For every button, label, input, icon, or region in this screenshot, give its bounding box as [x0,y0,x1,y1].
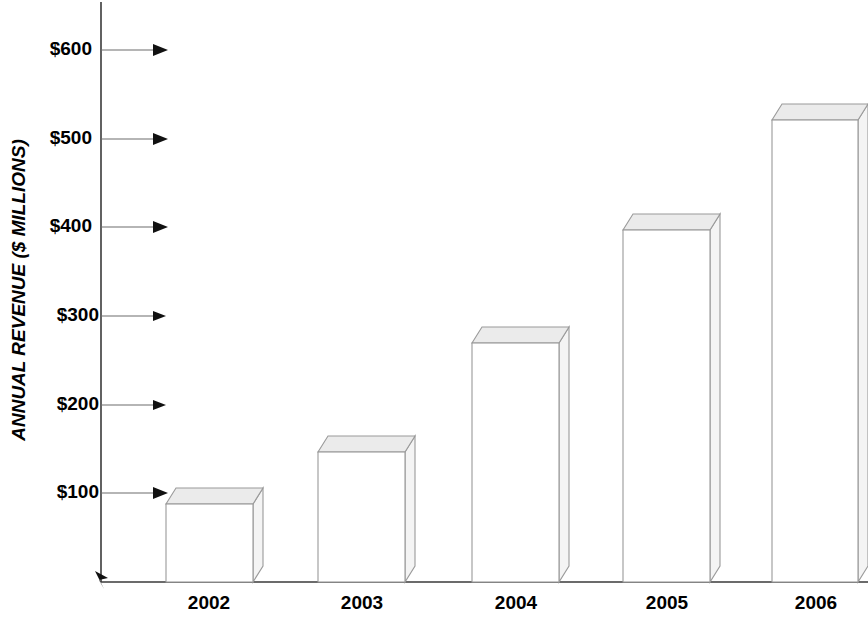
tick-arrow-icon [153,400,166,410]
chart-canvas: $600 $500 $400 $300 $200 [0,0,868,620]
y-tick-500: $500 [50,127,168,148]
tick-arrow-icon [153,133,168,145]
x-tick-label-2003: 2003 [341,592,383,613]
x-tick-label-2002: 2002 [188,592,230,613]
tick-arrow-icon [153,44,168,56]
x-tick-label-2006: 2006 [795,592,837,613]
revenue-bar-chart: $600 $500 $400 $300 $200 [0,0,868,620]
y-tick-label: $500 [50,127,92,148]
x-tick-label-2004: 2004 [495,592,538,613]
y-axis-title: ANNUAL REVENUE ($ MILLIONS) [8,139,29,442]
tick-arrow-icon [153,311,166,321]
x-tick-label-2005: 2005 [646,592,689,613]
y-tick-label: $200 [57,393,99,414]
y-tick-200: $200 [57,393,166,414]
y-tick-400: $400 [50,215,168,236]
tick-arrow-icon [153,221,168,233]
y-tick-label: $400 [50,215,92,236]
bar-2003 [318,436,415,582]
bar-2002 [166,488,263,582]
y-tick-label: $600 [50,38,92,59]
tick-arrow-icon [153,487,168,499]
bar-2004 [472,327,569,582]
y-tick-100: $100 [57,481,168,502]
y-tick-label: $100 [57,481,99,502]
bar-2006 [772,104,868,582]
y-tick-600: $600 [50,38,168,59]
bar-2005 [623,214,720,582]
y-tick-label: $300 [57,304,99,325]
y-tick-300: $300 [57,304,166,325]
